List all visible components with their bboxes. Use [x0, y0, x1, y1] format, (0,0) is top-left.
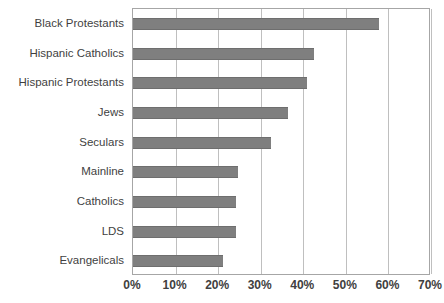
category-label: Evangelicals	[0, 254, 124, 266]
value-axis: 0%10%20%30%40%50%60%70%	[132, 278, 430, 300]
x-tick-label: 0%	[123, 278, 140, 292]
bar	[133, 18, 379, 30]
gridline-70pct	[431, 9, 432, 274]
bar	[133, 137, 271, 149]
bar	[133, 77, 307, 89]
category-label: Mainline	[0, 165, 124, 177]
x-tick-label: 30%	[248, 278, 272, 292]
bar	[133, 107, 288, 119]
x-tick-label: 60%	[375, 278, 399, 292]
category-label: Black Protestants	[0, 17, 124, 29]
x-tick-label: 40%	[290, 278, 314, 292]
plot-area	[132, 8, 430, 275]
bar	[133, 255, 223, 267]
bar	[133, 226, 236, 238]
x-tick-label: 50%	[333, 278, 357, 292]
category-label: Catholics	[0, 195, 124, 207]
category-label: Seculars	[0, 136, 124, 148]
x-tick-label: 20%	[205, 278, 229, 292]
category-label: Jews	[0, 106, 124, 118]
bar	[133, 196, 236, 208]
bars-layer	[133, 9, 429, 274]
x-tick-label: 70%	[418, 278, 442, 292]
bar-chart: Black ProtestantsHispanic CatholicsHispa…	[0, 0, 444, 303]
category-axis: Black ProtestantsHispanic CatholicsHispa…	[0, 8, 128, 275]
x-tick-label: 10%	[163, 278, 187, 292]
category-label: Hispanic Catholics	[0, 47, 124, 59]
category-label: Hispanic Protestants	[0, 76, 124, 88]
bar	[133, 48, 314, 60]
category-label: LDS	[0, 225, 124, 237]
bar	[133, 166, 238, 178]
